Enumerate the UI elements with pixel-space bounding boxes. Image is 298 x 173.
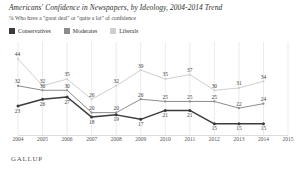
x-tick-2013: 2013 (233, 136, 244, 142)
data-point (262, 80, 264, 82)
gallup-chart-figure: Americans' Confidence in Newspapers, by … (0, 0, 298, 173)
data-point (238, 87, 240, 89)
data-label: 15 (261, 125, 267, 131)
data-point (140, 98, 142, 100)
gallup-logo: GALLUP (11, 155, 43, 163)
data-label: 15 (236, 125, 242, 131)
x-tick-2011: 2011 (184, 136, 195, 142)
data-label: 39 (138, 63, 144, 69)
data-label: 30 (64, 83, 70, 89)
data-label: 25 (163, 94, 169, 100)
data-label: 37 (187, 67, 193, 73)
data-label: 26 (138, 92, 144, 98)
data-point (140, 69, 142, 71)
data-label: 30 (212, 83, 218, 89)
x-tick-2004: 2004 (13, 136, 24, 142)
legend-item-liberals: Liberals (110, 28, 138, 34)
page-title: Americans' Confidence in Newspapers, by … (9, 3, 291, 12)
data-label: 32 (15, 78, 21, 84)
chart-footer: GALLUP (11, 155, 43, 163)
gridlines-group (18, 42, 288, 135)
data-label: 25 (212, 94, 218, 100)
data-label: 32 (40, 78, 46, 84)
x-tick-2007: 2007 (86, 136, 97, 142)
data-label: 24 (261, 96, 267, 102)
data-label: 20 (113, 105, 119, 111)
legend-label: Liberals (119, 28, 138, 34)
data-label: 44 (15, 51, 21, 57)
x-axis-tick-labels: 2004200520062007200820092010201120122013… (0, 136, 298, 148)
data-point (238, 107, 240, 109)
data-point (213, 89, 215, 91)
data-label: 35 (163, 71, 169, 77)
data-point (164, 78, 166, 80)
chart-subtitle: % Who have a "great deal" or "quite a lo… (9, 15, 291, 21)
data-label: 25 (187, 94, 193, 100)
data-label: 21 (187, 112, 193, 118)
chart-header: Americans' Confidence in Newspapers, by … (9, 3, 291, 21)
x-tick-2009: 2009 (135, 136, 146, 142)
data-label: 20 (89, 105, 95, 111)
data-point (66, 89, 68, 91)
chart-plot-area: 2326271819172121151515323030202026252525… (0, 40, 298, 138)
line-chart-svg: 2326271819172121151515323030202026252525… (0, 40, 298, 138)
data-label: 21 (163, 112, 169, 118)
data-label: 35 (64, 71, 70, 77)
data-point (66, 78, 68, 80)
legend-label: Conservatives (18, 28, 51, 34)
data-label: 15 (212, 125, 218, 131)
x-tick-2014: 2014 (258, 136, 269, 142)
data-point (213, 100, 215, 102)
data-label: 22 (236, 101, 242, 107)
legend-swatch-icon (9, 28, 15, 34)
legend-item-conservatives: Conservatives (9, 28, 51, 34)
data-point (115, 85, 117, 87)
x-tick-2008: 2008 (111, 136, 122, 142)
data-point (262, 103, 264, 105)
data-point (17, 85, 19, 87)
legend-swatch-icon (64, 28, 70, 34)
x-tick-2015: 2015 (283, 136, 294, 142)
x-tick-2012: 2012 (209, 136, 220, 142)
data-point (91, 112, 93, 114)
data-point (189, 100, 191, 102)
data-label: 26 (89, 92, 95, 98)
data-label: 18 (89, 119, 95, 125)
data-label: 17 (138, 121, 144, 127)
data-label: 26 (40, 101, 46, 107)
data-label: 27 (64, 99, 70, 105)
data-point (164, 100, 166, 102)
data-label: 31 (236, 80, 242, 86)
chart-legend: ConservativesModeratesLiberals (9, 28, 138, 34)
legend-item-moderates: Moderates (64, 28, 97, 34)
x-tick-2005: 2005 (37, 136, 48, 142)
legend-label: Moderates (73, 28, 97, 34)
data-label: 32 (113, 78, 119, 84)
data-point (17, 58, 19, 60)
legend-swatch-icon (110, 28, 116, 34)
x-tick-2010: 2010 (160, 136, 171, 142)
data-point (189, 74, 191, 76)
x-tick-2006: 2006 (62, 136, 73, 142)
data-point (41, 89, 43, 91)
data-point (91, 98, 93, 100)
data-label: 23 (15, 108, 21, 114)
data-label: 34 (261, 74, 267, 80)
data-label: 19 (113, 116, 119, 122)
